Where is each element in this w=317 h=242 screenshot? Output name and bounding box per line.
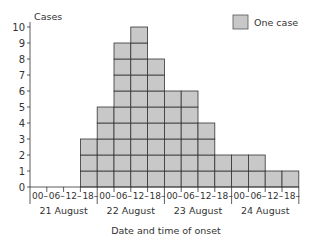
- case-square: [248, 171, 265, 187]
- y-axis: 012345678910: [12, 22, 30, 193]
- x-tick-label: 06–: [183, 191, 199, 201]
- x-tick-label: 12–: [200, 191, 216, 201]
- case-square: [181, 91, 198, 107]
- case-square: [131, 123, 148, 139]
- y-tick-label: 8: [19, 54, 25, 65]
- case-square: [131, 107, 148, 123]
- y-tick-label: 2: [19, 150, 25, 161]
- case-square: [164, 171, 181, 187]
- case-square: [148, 155, 165, 171]
- x-tick-label: 12–: [66, 191, 82, 201]
- case-square: [97, 155, 114, 171]
- case-square: [114, 107, 131, 123]
- y-tick-label: 3: [19, 134, 25, 145]
- case-square: [114, 91, 131, 107]
- case-square: [198, 139, 215, 155]
- case-square: [215, 171, 232, 187]
- x-tick-label: 18–: [150, 191, 166, 201]
- case-square: [114, 59, 131, 75]
- x-tick-label: 00–: [32, 191, 48, 201]
- epidemic-curve-chart: 012345678910 00–06–12–18–00–06–12–18–00–…: [0, 0, 317, 242]
- case-bars: [80, 27, 298, 187]
- case-square: [131, 155, 148, 171]
- case-square: [148, 123, 165, 139]
- case-square: [114, 155, 131, 171]
- y-axis-label: Cases: [34, 11, 62, 22]
- y-tick-label: 10: [12, 22, 25, 33]
- case-square: [80, 171, 97, 187]
- x-tick-label: 18–: [284, 191, 300, 201]
- case-square: [248, 155, 265, 171]
- case-square: [198, 123, 215, 139]
- case-square: [164, 155, 181, 171]
- case-square: [131, 91, 148, 107]
- y-tick-label: 7: [19, 70, 25, 81]
- case-square: [282, 171, 299, 187]
- case-square: [164, 139, 181, 155]
- y-tick-label: 1: [19, 166, 25, 177]
- case-square: [148, 59, 165, 75]
- day-label: 23 August: [174, 205, 223, 216]
- case-square: [181, 107, 198, 123]
- x-tick-label: 06–: [116, 191, 132, 201]
- case-square: [181, 139, 198, 155]
- case-square: [80, 155, 97, 171]
- case-square: [97, 139, 114, 155]
- case-square: [181, 171, 198, 187]
- legend-swatch: [233, 15, 248, 29]
- case-square: [80, 139, 97, 155]
- case-square: [114, 139, 131, 155]
- y-tick-label: 4: [19, 118, 25, 129]
- case-square: [148, 75, 165, 91]
- case-square: [97, 107, 114, 123]
- x-tick-label: 06–: [250, 191, 266, 201]
- y-tick-label: 5: [19, 102, 25, 113]
- y-tick-label: 9: [19, 38, 25, 49]
- x-tick-label: 12–: [267, 191, 283, 201]
- legend-label: One case: [254, 17, 298, 28]
- x-tick-label: 18–: [82, 191, 98, 201]
- case-square: [131, 171, 148, 187]
- case-square: [131, 59, 148, 75]
- legend: One case: [233, 15, 298, 29]
- case-square: [198, 171, 215, 187]
- case-square: [148, 107, 165, 123]
- case-square: [148, 91, 165, 107]
- x-tick-label: 06–: [49, 191, 65, 201]
- case-square: [164, 91, 181, 107]
- case-square: [181, 123, 198, 139]
- case-square: [215, 155, 232, 171]
- x-tick-label: 18–: [217, 191, 233, 201]
- x-tick-label: 00–: [234, 191, 250, 201]
- x-tick-label: 00–: [99, 191, 115, 201]
- day-label: 21 August: [39, 205, 88, 216]
- case-square: [131, 139, 148, 155]
- case-square: [148, 171, 165, 187]
- case-square: [114, 123, 131, 139]
- x-axis: 00–06–12–18–00–06–12–18–00–06–12–18–00–0…: [30, 187, 300, 216]
- case-square: [131, 75, 148, 91]
- case-square: [114, 43, 131, 59]
- x-tick-label: 00–: [166, 191, 182, 201]
- case-square: [114, 171, 131, 187]
- x-tick-label: 12–: [133, 191, 149, 201]
- case-square: [114, 75, 131, 91]
- y-tick-label: 6: [19, 86, 25, 97]
- y-tick-label: 0: [19, 182, 25, 193]
- case-square: [164, 123, 181, 139]
- case-square: [131, 27, 148, 43]
- case-square: [265, 171, 282, 187]
- case-square: [164, 107, 181, 123]
- case-square: [232, 171, 249, 187]
- case-square: [181, 155, 198, 171]
- case-square: [232, 155, 249, 171]
- case-square: [97, 123, 114, 139]
- case-square: [97, 171, 114, 187]
- day-label: 22 August: [107, 205, 156, 216]
- case-square: [131, 43, 148, 59]
- x-axis-label: Date and time of onset: [111, 225, 221, 236]
- case-square: [198, 155, 215, 171]
- case-square: [148, 139, 165, 155]
- day-label: 24 August: [241, 205, 290, 216]
